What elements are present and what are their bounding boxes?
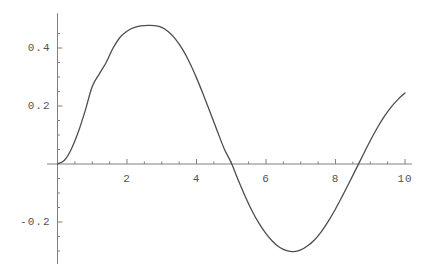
x-tick-label: 8 (332, 173, 340, 185)
y-tick-label: 0.4 (28, 42, 51, 54)
axis-group (47, 13, 412, 264)
x-tick-label: 2 (123, 173, 131, 185)
x-axis-ticks (75, 159, 405, 164)
y-tick-label: -0.2 (20, 216, 50, 228)
plot-canvas: 246810 0.40.2-0.2 (0, 0, 437, 271)
data-curve-group (58, 25, 406, 251)
data-curve (58, 25, 406, 251)
x-tick-label: 6 (262, 173, 270, 185)
y-tick-label: 0.2 (28, 100, 51, 112)
x-tick-label: 10 (397, 173, 412, 185)
x-tick-label: 4 (193, 173, 201, 185)
chart-graphics (0, 0, 437, 271)
y-axis-ticks (58, 34, 63, 252)
